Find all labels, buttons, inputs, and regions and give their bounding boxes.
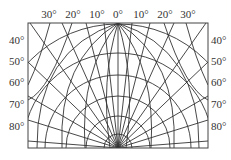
top-label-0: 0° <box>113 9 123 20</box>
top-label-20-right: 20° <box>157 9 172 20</box>
left-label-50: 50° <box>9 56 24 67</box>
right-label-70: 70° <box>211 99 226 110</box>
left-label-70: 70° <box>9 99 24 110</box>
top-label-20-left: 20° <box>65 9 80 20</box>
right-label-50: 50° <box>211 56 226 67</box>
left-label-80: 80° <box>9 121 24 132</box>
right-label-80: 80° <box>211 121 226 132</box>
left-label-40: 40° <box>9 35 24 46</box>
left-label-60: 60° <box>9 77 24 88</box>
projection-grid <box>0 0 231 160</box>
radial-lines <box>28 23 208 148</box>
top-label-10-right: 10° <box>133 9 148 20</box>
top-label-10-left: 10° <box>89 9 104 20</box>
right-label-40: 40° <box>211 35 226 46</box>
right-label-60: 60° <box>211 77 226 88</box>
top-label-30-right: 30° <box>180 9 195 20</box>
top-label-30-left: 30° <box>41 9 56 20</box>
